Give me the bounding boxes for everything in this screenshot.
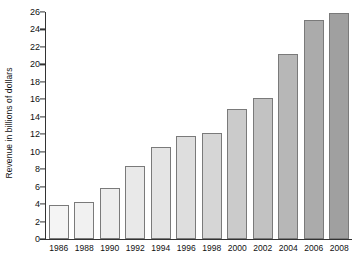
x-axis-tick-label: 2002 bbox=[253, 243, 272, 253]
y-axis-tick-label: 24 bbox=[30, 25, 40, 34]
y-axis-tick-mark bbox=[40, 81, 45, 82]
y-axis-tick-mark bbox=[40, 99, 45, 100]
bar bbox=[202, 133, 222, 240]
bar bbox=[125, 166, 145, 239]
y-axis-tick-label: 26 bbox=[30, 8, 40, 17]
y-axis-tick-mark bbox=[40, 169, 45, 170]
x-axis-tick-label: 2006 bbox=[304, 243, 323, 253]
bar bbox=[151, 147, 171, 239]
x-axis-tick-label: 1998 bbox=[202, 243, 221, 253]
plot-area bbox=[46, 12, 352, 239]
y-axis-tick-mark bbox=[40, 151, 45, 152]
bar bbox=[227, 109, 247, 239]
x-axis-tick-label: 1986 bbox=[49, 243, 68, 253]
x-axis-tick-label: 1988 bbox=[75, 243, 94, 253]
x-axis-spine bbox=[40, 239, 352, 240]
y-axis-tick-label: 16 bbox=[30, 95, 40, 104]
y-axis-tick-labels: 02468101214161820222426 bbox=[18, 0, 42, 245]
x-axis-tick-label: 1992 bbox=[126, 243, 145, 253]
y-axis-tick-label: 14 bbox=[30, 112, 40, 121]
y-axis-tick-mark bbox=[40, 29, 45, 30]
bar bbox=[74, 202, 94, 239]
bar bbox=[100, 188, 120, 239]
bar-chart: Revenue in billions of dollars 024681012… bbox=[0, 0, 356, 269]
y-axis-tick-mark bbox=[40, 134, 45, 135]
bar bbox=[253, 98, 273, 239]
y-axis-tick-label: 10 bbox=[30, 147, 40, 156]
x-axis-tick-label: 1990 bbox=[100, 243, 119, 253]
y-axis-title: Revenue in billions of dollars bbox=[0, 0, 18, 245]
x-axis-tick-label: 2004 bbox=[279, 243, 298, 253]
y-axis-tick-mark bbox=[40, 203, 45, 204]
x-axis-tick-label: 1996 bbox=[177, 243, 196, 253]
y-axis-tick-mark bbox=[40, 64, 45, 65]
x-axis-tick-label: 2008 bbox=[330, 243, 349, 253]
x-axis-tick-label: 1994 bbox=[151, 243, 170, 253]
y-axis-title-text: Revenue in billions of dollars bbox=[4, 67, 14, 178]
y-axis-tick-label: 12 bbox=[30, 130, 40, 139]
x-axis-tick-labels: 1986198819901992199419961998200020022004… bbox=[46, 243, 352, 259]
y-axis-tick-label: 20 bbox=[30, 60, 40, 69]
y-axis-tick-mark bbox=[40, 186, 45, 187]
bar bbox=[49, 205, 69, 239]
bar bbox=[176, 136, 196, 239]
bar bbox=[304, 20, 324, 239]
y-axis-tick-mark bbox=[40, 221, 45, 222]
bar bbox=[329, 13, 349, 239]
y-axis-tick-mark bbox=[40, 46, 45, 47]
bar bbox=[278, 54, 298, 239]
y-axis-tick-mark bbox=[40, 11, 45, 12]
x-axis-tick-label: 2000 bbox=[228, 243, 247, 253]
y-axis-tick-label: 18 bbox=[30, 77, 40, 86]
y-axis-tick-mark bbox=[40, 116, 45, 117]
y-axis-tick-label: 22 bbox=[30, 42, 40, 51]
